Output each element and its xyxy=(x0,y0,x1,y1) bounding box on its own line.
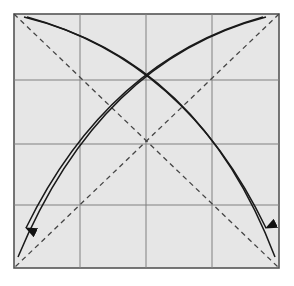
fold-diagram xyxy=(0,0,294,286)
